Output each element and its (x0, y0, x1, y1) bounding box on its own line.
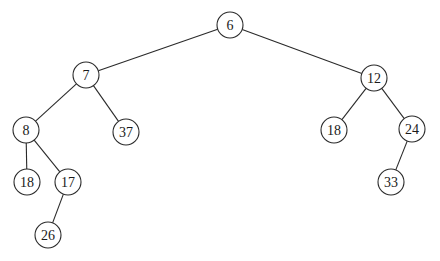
edge-8-17 (34, 140, 60, 172)
tree-edges (26, 29, 407, 223)
node-label: 26 (41, 228, 55, 243)
binary-tree-diagram: 6712837182418173326 (0, 0, 440, 261)
edge-6-12 (242, 29, 362, 73)
node-label: 6 (227, 18, 234, 33)
tree-node-7: 7 (73, 62, 99, 88)
edge-8-18 (26, 143, 27, 169)
tree-node-18: 18 (14, 169, 40, 195)
node-label: 37 (119, 125, 133, 140)
tree-nodes: 6712837182418173326 (13, 12, 425, 248)
tree-node-17: 17 (55, 169, 81, 195)
edge-17-26 (53, 194, 64, 223)
node-label: 33 (384, 175, 398, 190)
edge-7-37 (93, 86, 118, 122)
tree-node-37: 37 (113, 119, 139, 145)
edge-12-18 (342, 88, 366, 119)
tree-node-8: 8 (13, 117, 39, 143)
tree-node-18: 18 (321, 117, 347, 143)
node-label: 8 (23, 123, 30, 138)
tree-node-12: 12 (361, 65, 387, 91)
node-label: 17 (61, 175, 75, 190)
tree-node-6: 6 (217, 12, 243, 38)
edge-12-24 (382, 88, 404, 118)
node-label: 24 (405, 122, 419, 137)
tree-node-33: 33 (378, 169, 404, 195)
tree-node-26: 26 (35, 222, 61, 248)
tree-node-24: 24 (399, 116, 425, 142)
node-label: 18 (327, 123, 341, 138)
edge-24-33 (396, 141, 407, 170)
node-label: 18 (20, 175, 34, 190)
edge-7-8 (36, 84, 77, 121)
edge-6-7 (98, 29, 217, 70)
node-label: 7 (83, 68, 90, 83)
node-label: 12 (367, 71, 381, 86)
